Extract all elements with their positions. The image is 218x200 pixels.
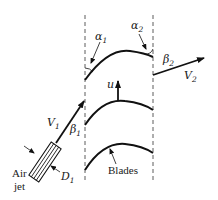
d1-dimension-arrow-right — [51, 166, 60, 172]
beta1-label: β1 — [69, 123, 81, 138]
blades-label: Blades — [108, 164, 138, 176]
v2-label: V2 — [184, 69, 197, 84]
alpha2-label: α2 — [131, 19, 143, 34]
blades-leader — [110, 149, 116, 164]
exit-velocity-v2-arrow — [153, 58, 204, 75]
alpha2-angle-arc — [145, 49, 153, 54]
v1-label: V1 — [47, 116, 60, 131]
alpha1-label: α1 — [95, 30, 107, 45]
alpha2-leader — [139, 34, 146, 49]
air-jet-nozzle — [29, 142, 61, 182]
air-jet-label-line2: jet — [13, 180, 25, 192]
blade-middle — [85, 101, 153, 125]
beta2-label: β2 — [162, 53, 174, 68]
u-label: u — [107, 78, 114, 91]
alpha1-leader — [91, 42, 100, 63]
blade-top — [85, 51, 153, 80]
air-jet-label-line1: Air — [12, 167, 27, 179]
d1-label: D1 — [60, 170, 75, 185]
blade-jet-diagram: α1 α2 u β2 V2 V1 β1 D1 Air jet Blades — [0, 0, 218, 200]
d1-dimension-arrow-left — [24, 146, 34, 153]
